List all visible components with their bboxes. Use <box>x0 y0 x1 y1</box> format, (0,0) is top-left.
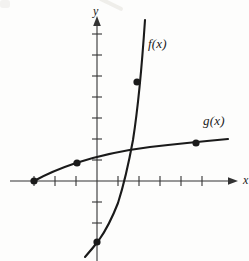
x-axis-label: x <box>243 173 248 188</box>
g-point-middle <box>73 159 80 166</box>
y-axis-label: y <box>93 4 98 19</box>
x-axis-arrow-icon <box>228 177 238 185</box>
y-axis-group <box>92 16 102 261</box>
f-point-upper <box>133 78 140 85</box>
g-point-x-intercept <box>30 177 37 184</box>
f-curve-label: f(x) <box>148 36 167 52</box>
exponential-logarithmic-graph-figure: f(x) g(x) y x <box>0 0 249 261</box>
f-point-y-intercept <box>93 238 100 245</box>
g-point-right <box>192 139 199 146</box>
plot-canvas <box>0 0 249 261</box>
g-curve-label: g(x) <box>203 113 225 129</box>
